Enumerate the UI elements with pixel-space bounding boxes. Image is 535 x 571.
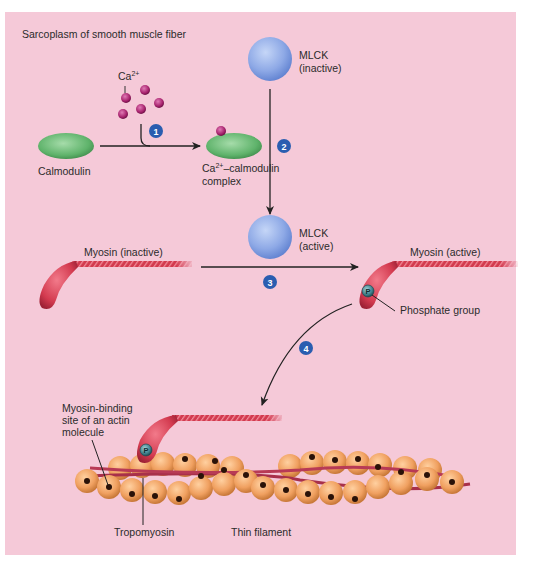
calmodulin-label: Calmodulin (38, 165, 91, 177)
myosin-active: P (359, 261, 518, 309)
calmodulin-shape (38, 133, 94, 159)
svg-text:1: 1 (153, 127, 158, 137)
myosin-inactive (39, 261, 192, 309)
calcium-label: Ca2+ (118, 70, 139, 82)
mlck-inactive-label-line1: MLCK (299, 49, 328, 61)
svg-text:3: 3 (267, 278, 272, 288)
complex-label-line1: Ca2+–calmodulin (202, 162, 280, 174)
bound-calcium-ion (216, 126, 226, 136)
mlck-inactive-label-line2: (inactive) (299, 62, 342, 74)
myosin-inactive-label: Myosin (inactive) (84, 246, 163, 258)
ca-calmodulin-complex-shape (206, 133, 262, 159)
mlck-active-label-line2: (active) (299, 240, 333, 252)
step-badge-3: 3 (263, 275, 277, 289)
mlck-active-label-line1: MLCK (299, 227, 328, 239)
step-badge-2: 2 (277, 139, 291, 153)
thin-filament-label: Thin filament (231, 526, 291, 538)
mlck-active-shape (248, 215, 292, 259)
mlck-inactive-shape (248, 37, 292, 81)
tropomyosin-label: Tropomyosin (114, 526, 174, 538)
svg-text:4: 4 (303, 344, 308, 354)
thin-filament (75, 450, 470, 505)
step-badge-1: 1 (149, 124, 163, 138)
binding-site-label-line3: molecule (62, 426, 104, 438)
step-badge-4: 4 (299, 341, 313, 355)
diagram-title: Sarcoplasm of smooth muscle fiber (22, 28, 186, 40)
phosphate-group-label: Phosphate group (400, 304, 480, 316)
complex-label-line2: complex (202, 175, 242, 187)
svg-text:P: P (143, 446, 148, 455)
binding-site-label-line2: site of an actin (62, 414, 130, 426)
smooth-muscle-contraction-diagram: Sarcoplasm of smooth muscle fiber Ca2+ C… (0, 0, 535, 571)
calcium-ions (118, 85, 164, 119)
phosphate-leader-line (372, 295, 395, 311)
svg-text:2: 2 (281, 142, 286, 152)
binding-site-label-line1: Myosin-binding (62, 402, 133, 414)
myosin-active-label: Myosin (active) (410, 246, 481, 258)
calcium-binding-path (141, 124, 150, 146)
svg-text:P: P (365, 287, 370, 296)
